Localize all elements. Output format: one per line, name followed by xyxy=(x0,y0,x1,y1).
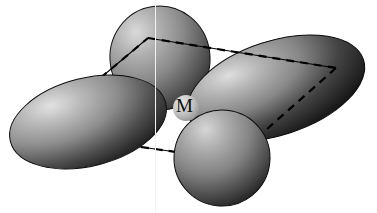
metal-center-label: M xyxy=(176,96,193,115)
orbital-figure: M xyxy=(0,0,377,213)
